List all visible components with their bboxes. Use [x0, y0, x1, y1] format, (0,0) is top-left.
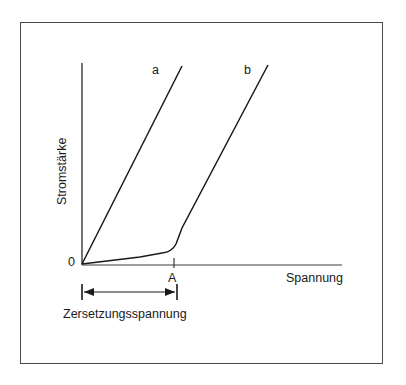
curve-a-label: a [152, 64, 159, 77]
curve-b-line [82, 65, 268, 264]
figure-root: Stromstärke Spannung 0 A a b Zersetzungs… [0, 0, 406, 385]
origin-label: 0 [68, 256, 75, 269]
curve-b-label: b [244, 64, 251, 77]
curve-a-line [82, 66, 182, 264]
point-a-label: A [168, 272, 176, 285]
decomposition-voltage-arrow [82, 284, 177, 300]
decomposition-voltage-label: Zersetzungsspannung [63, 308, 187, 321]
y-axis-label: Stromstärke [56, 138, 69, 205]
x-axis-label: Spannung [286, 272, 343, 285]
